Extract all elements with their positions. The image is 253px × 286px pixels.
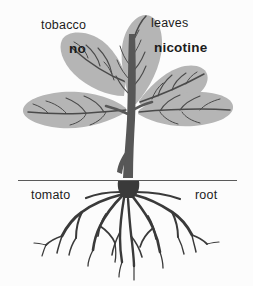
root-tip <box>88 250 93 266</box>
root-branch <box>128 199 134 266</box>
plant-illustration <box>0 0 253 286</box>
root-branch <box>120 198 124 262</box>
root-branch <box>140 228 153 247</box>
root-tip <box>178 237 184 254</box>
label-no: no <box>69 41 86 56</box>
root-branch <box>192 235 196 252</box>
leaf-lower-left <box>23 92 126 129</box>
root-tip <box>115 243 116 262</box>
root-tip <box>160 252 163 268</box>
root-branch <box>135 195 192 235</box>
label-leaves: leaves <box>151 16 188 30</box>
grafted-plant-figure: tobacco leaves no nicotine tomato root <box>0 0 253 286</box>
label-root: root <box>195 188 217 202</box>
root-tip <box>69 238 76 255</box>
leaf-blade <box>23 92 126 129</box>
root-tip <box>119 262 122 277</box>
label-nicotine: nicotine <box>154 40 207 55</box>
label-tomato: tomato <box>31 188 70 202</box>
root-branch <box>100 226 115 243</box>
root-tip <box>207 242 219 244</box>
root-branch <box>62 195 120 236</box>
root-tip <box>42 245 46 256</box>
label-tobacco: tobacco <box>41 18 86 32</box>
root-tip <box>34 243 46 245</box>
